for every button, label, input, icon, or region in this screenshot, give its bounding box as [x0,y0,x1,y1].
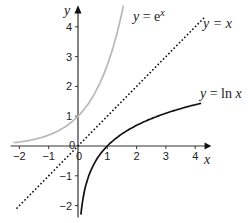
y-tick-label: 3 [66,51,72,63]
y-tick-label: −1 [59,170,72,182]
identity-line-label: y = x [201,16,233,31]
x-tick-label: 3 [163,150,169,162]
chart-exp-ln-identity: −2−101234−2−112340xyy = exy = xy = ln x [0,0,248,223]
x-tick-label: 0 [76,150,82,162]
exp-curve-label: y = ex [131,7,165,24]
y-tick-label: −2 [59,200,72,212]
plot-area: −2−101234−2−112340xyy = exy = xy = ln x [0,0,248,223]
y-tick-label: 1 [66,110,72,122]
x-tick-label: 4 [192,150,198,162]
ln-curve-label: y = ln x [198,86,243,101]
x-tick-label: −2 [13,150,26,162]
x-tick-label: 2 [134,150,140,162]
x-tick-label: 1 [104,150,110,162]
x-tick-label: −1 [42,150,55,162]
y-tick-label: 2 [66,80,72,92]
y-axis-arrow-icon [75,5,82,13]
y-tick-label: 4 [66,21,72,33]
x-axis-arrow-icon [205,143,212,150]
y-axis-label: y [62,3,71,18]
labels: −2−101234−2−112340xyy = exy = xy = ln x [13,3,242,212]
axes [11,5,212,217]
curves [14,6,204,215]
ln-curve [81,103,201,214]
identity-line [16,18,204,209]
x-axis-label: x [203,152,211,167]
origin-label: 0 [69,139,75,151]
